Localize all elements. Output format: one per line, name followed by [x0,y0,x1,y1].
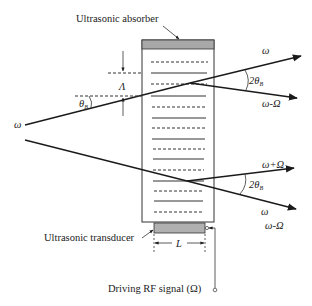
acousto-optic-diagram: L Ultrasonic absorber Ultrasonic transdu… [0,0,312,306]
rf-signal-wire [209,228,217,292]
omega-out-upper-label: ω [262,45,269,56]
two-theta-lower-label: 2θB [249,179,263,191]
transducer-label: Ultrasonic transducer [44,232,135,243]
ultrasonic-transducer [154,223,205,233]
ultrasonic-absorber [142,40,214,49]
omega-out-lower-label: ω [261,206,268,217]
length-label: L [175,238,182,249]
two-theta-upper-label: 2θB [249,75,263,87]
omega-plus-lower-label: ω+Ω [262,159,284,170]
transducer-terminal [205,226,208,229]
omega-minus-upper-label: ω-Ω [262,98,281,109]
rf-signal-label: Driving RF signal (Ω) [108,283,202,295]
length-dimension: L [154,234,205,252]
absorber-label: Ultrasonic absorber [76,13,159,24]
omega-in-upper-label: ω [14,119,21,130]
theta-b-label: θB [79,98,88,110]
omega-minus-lower-label: ω-Ω [265,220,284,231]
acousto-optic-crystal [142,40,214,222]
lambda-label: Λ [118,81,126,92]
